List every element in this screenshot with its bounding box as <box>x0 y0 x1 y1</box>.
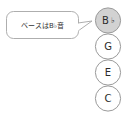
callout-tail-icon <box>78 21 92 31</box>
diagram-canvas: ベースはB♭音 B ♭ G E C <box>0 0 127 121</box>
note-label-c: C <box>105 93 112 104</box>
chord-diagram: ベースはB♭音 B ♭ G E C <box>0 0 127 121</box>
note-label-bflat: B <box>102 15 109 26</box>
note-accidental-bflat: ♭ <box>111 16 115 25</box>
note-label-g: G <box>104 41 112 52</box>
note-label-e: E <box>105 67 111 78</box>
callout-label: ベースはB♭音 <box>21 21 64 30</box>
